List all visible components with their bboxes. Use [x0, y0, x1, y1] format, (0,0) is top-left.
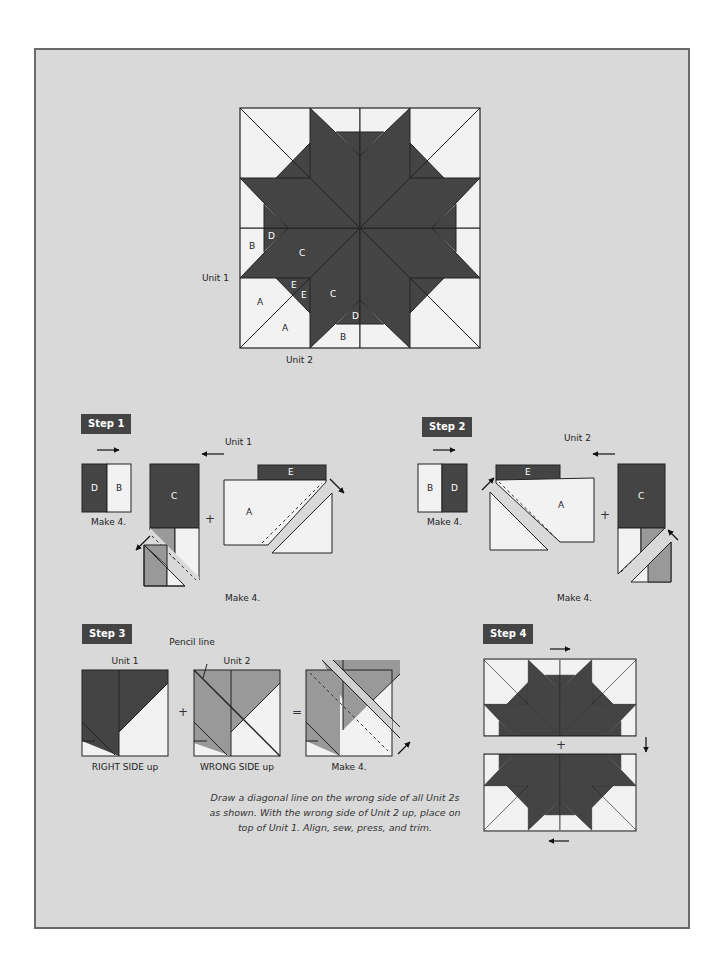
step4-diagram — [0, 0, 728, 960]
step4-plus: + — [556, 738, 566, 752]
